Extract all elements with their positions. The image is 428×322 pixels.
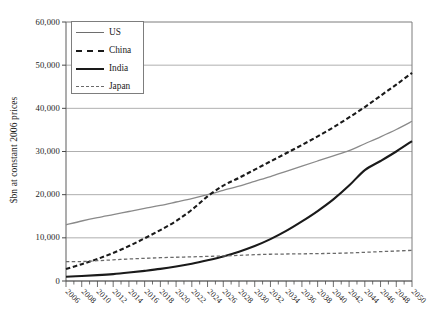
chart-legend: US China India Japan [71,21,144,94]
legend-swatch-us-icon [76,27,104,37]
legend-swatch-india-icon [76,63,104,73]
legend-label-china: China [109,45,131,55]
legend-swatch-china-icon [76,45,104,55]
legend-item-china: China [76,42,142,58]
legend-label-india: India [109,63,128,73]
legend-label-us: US [109,27,121,37]
legend-item-japan: Japan [76,78,142,94]
legend-item-us: US [76,24,142,40]
legend-item-india: India [76,60,142,76]
legend-swatch-japan-icon [76,81,104,91]
series-line-india [66,141,412,277]
series-line-china [66,73,412,269]
legend-label-japan: Japan [109,81,130,91]
